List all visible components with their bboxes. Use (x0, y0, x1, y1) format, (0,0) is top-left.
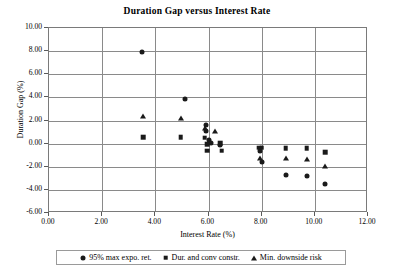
data-point-triangle (283, 156, 289, 161)
legend-circle-icon (81, 255, 86, 260)
y-tick-label: 8.00 (29, 46, 42, 54)
y-tick-label: 6.00 (29, 69, 42, 77)
data-point-square (323, 150, 328, 155)
x-axis-title: Interest Rate (%) (48, 230, 367, 239)
chart-legend: 95% max expo. ret.Dur. and conv constr.M… (56, 250, 346, 265)
x-tick-label: 4.00 (134, 218, 174, 226)
x-tick-mark (154, 212, 155, 216)
data-point-triangle (322, 164, 328, 169)
chart-figure: Duration Gap versus Interest Rate Durati… (0, 0, 394, 275)
data-point-square (259, 145, 264, 150)
data-point-square (141, 135, 146, 140)
data-point-square (218, 141, 223, 146)
data-point-circle (283, 173, 288, 178)
x-tick-mark (314, 212, 315, 216)
x-tick-mark (261, 212, 262, 216)
legend-marker-circle (80, 255, 86, 261)
legend-marker-square (163, 255, 169, 261)
x-tick-label: 12.00 (347, 218, 387, 226)
y-tick-label: 0.00 (29, 139, 42, 147)
x-tick-label: 0.00 (28, 218, 68, 226)
data-point-triangle (202, 126, 208, 131)
y-tick-label: -2.00 (26, 162, 42, 170)
y-tick-label: 2.00 (29, 116, 42, 124)
legend-square-icon (163, 255, 168, 260)
data-point-circle (182, 96, 187, 101)
data-points-layer (49, 28, 366, 211)
data-point-square (283, 146, 288, 151)
data-point-triangle (140, 114, 146, 119)
legend-entry: Min. downside risk (251, 253, 322, 262)
x-tick-label: 8.00 (241, 218, 281, 226)
data-point-square (205, 148, 210, 153)
legend-marker-triangle (251, 255, 257, 261)
plot-area (48, 27, 367, 212)
data-point-square (178, 135, 183, 140)
x-tick-label: 2.00 (81, 218, 121, 226)
data-point-circle (140, 49, 145, 54)
x-tick-mark (208, 212, 209, 216)
y-tick-label: -4.00 (26, 185, 42, 193)
data-point-circle (304, 174, 309, 179)
legend-triangle-icon (251, 255, 257, 260)
data-point-triangle (304, 156, 310, 161)
x-tick-label: 10.00 (294, 218, 334, 226)
data-point-triangle (257, 155, 263, 160)
data-point-square (219, 148, 224, 153)
data-point-square (205, 142, 210, 147)
legend-entry: Dur. and conv constr. (163, 253, 240, 262)
x-tick-label: 6.00 (188, 218, 228, 226)
legend-entry: 95% max expo. ret. (80, 253, 151, 262)
x-tick-mark (48, 212, 49, 216)
data-point-square (202, 136, 207, 141)
data-point-circle (323, 182, 328, 187)
data-point-triangle (212, 128, 218, 133)
x-tick-mark (367, 212, 368, 216)
y-axis-title: Duration Gap (%) (16, 55, 25, 165)
chart-title: Duration Gap versus Interest Rate (0, 6, 394, 16)
data-point-square (305, 146, 310, 151)
y-tick-label: 10.00 (25, 23, 42, 31)
y-tick-label: 4.00 (29, 92, 42, 100)
legend-label: Min. downside risk (260, 253, 322, 262)
y-tick-label: -6.00 (26, 208, 42, 216)
data-point-triangle (178, 115, 184, 120)
x-tick-mark (101, 212, 102, 216)
legend-label: 95% max expo. ret. (89, 253, 151, 262)
legend-label: Dur. and conv constr. (172, 253, 240, 262)
